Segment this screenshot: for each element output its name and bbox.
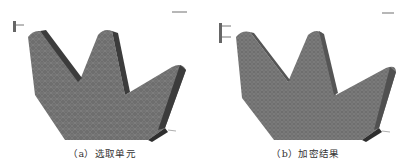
gear-mesh-image-b <box>204 0 407 146</box>
panel-b-refined-result: （b）加密结果 <box>204 0 407 166</box>
caption-b: （b）加密结果 <box>204 146 407 160</box>
gear-mesh-image-a <box>0 0 204 146</box>
caption-a: （a）选取单元 <box>0 146 204 160</box>
panel-a-selected-elements: （a）选取单元 <box>0 0 204 166</box>
axis-triad-icon <box>219 23 231 43</box>
axis-triad-icon <box>13 21 24 32</box>
gear-body-b <box>236 31 396 140</box>
